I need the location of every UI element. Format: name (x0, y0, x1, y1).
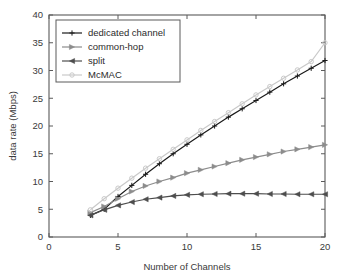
data-point-marker (295, 147, 300, 152)
y-axis-title: data rate (Mbps) (7, 91, 18, 161)
y-tick-label: 0 (38, 231, 43, 242)
data-point-marker (157, 179, 162, 184)
data-point-marker (184, 171, 189, 176)
legend-label-common-hop: common-hop (88, 41, 143, 52)
y-tick-label: 35 (32, 37, 43, 48)
data-point-marker (129, 189, 134, 194)
series-line (90, 194, 325, 216)
data-point-marker (240, 191, 245, 196)
data-point-marker (253, 191, 258, 196)
data-point-marker (309, 144, 314, 149)
y-tick-label: 20 (32, 120, 43, 131)
legend: dedicated channelcommon-hopsplitMcMAC (56, 20, 180, 82)
data-point-marker (171, 193, 176, 198)
data-point-marker (171, 175, 176, 180)
data-point-marker (240, 157, 245, 162)
x-tick-label: 15 (251, 241, 262, 252)
x-tick-label: 20 (320, 241, 331, 252)
series-line (90, 61, 325, 216)
y-tick-label: 5 (38, 204, 43, 215)
legend-label-dedicated-channel: dedicated channel (88, 27, 165, 38)
legend-label-mcmac: McMAC (88, 69, 122, 80)
data-point-marker (295, 192, 300, 197)
data-point-marker (143, 197, 148, 202)
x-tick-label: 10 (182, 241, 193, 252)
data-point-marker (212, 191, 217, 196)
series-line (90, 145, 325, 213)
y-tick-label: 40 (32, 9, 43, 20)
data-point-marker (129, 199, 134, 204)
data-point-marker (267, 152, 272, 157)
data-point-marker (309, 192, 314, 197)
y-tick-label: 15 (32, 148, 43, 159)
y-tick-label: 10 (32, 176, 43, 187)
data-point-marker (226, 191, 231, 196)
data-point-marker (184, 192, 189, 197)
y-tick-label: 25 (32, 93, 43, 104)
line-chart: 05101520 0510152025303540 Number of Chan… (0, 0, 347, 277)
legend-label-split: split (88, 55, 105, 66)
y-tick-label: 30 (32, 65, 43, 76)
data-point-marker (143, 183, 148, 188)
data-point-marker (212, 164, 217, 169)
data-point-marker (253, 154, 258, 159)
data-point-marker (115, 203, 120, 208)
data-point-marker (267, 191, 272, 196)
data-point-marker (281, 149, 286, 154)
data-point-marker (198, 192, 203, 197)
chart-figure: 05101520 0510152025303540 Number of Chan… (0, 0, 347, 277)
x-tick-label: 5 (115, 241, 120, 252)
data-point-marker (226, 161, 231, 166)
data-point-marker (157, 195, 162, 200)
x-tick-label: 0 (46, 241, 51, 252)
data-point-marker (198, 167, 203, 172)
x-axis-title: Number of Channels (143, 261, 230, 272)
data-point-marker (281, 191, 286, 196)
